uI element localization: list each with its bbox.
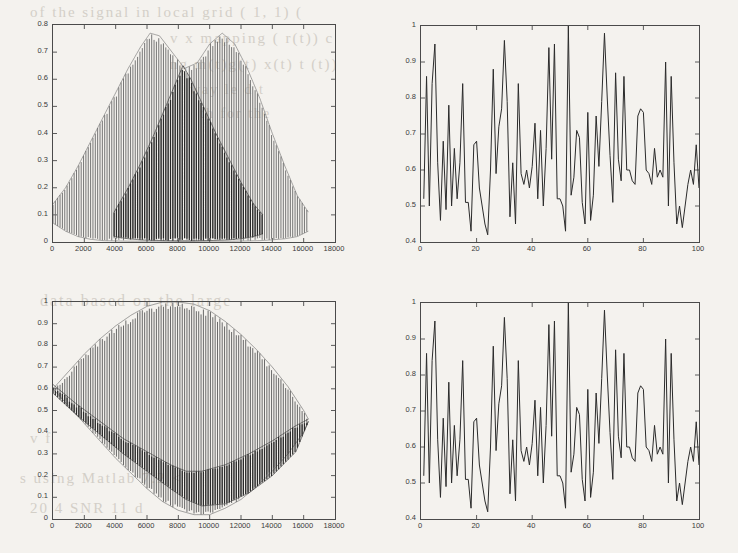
y-axis-tick-label: 0.7 bbox=[386, 406, 416, 414]
panel-bottom-left: 00.10.20.30.40.50.60.70.80.9102000400060… bbox=[0, 277, 369, 553]
y-axis-tick-label: 0.5 bbox=[18, 406, 48, 414]
x-axis-tick-label: 80 bbox=[622, 522, 662, 530]
y-axis-tick-label: 0.2 bbox=[18, 471, 48, 479]
tick-marks bbox=[421, 26, 699, 242]
x-axis-tick-label: 0 bbox=[400, 245, 440, 253]
y-axis-tick-label: 0.7 bbox=[386, 129, 416, 137]
y-axis-tick-label: 0.5 bbox=[386, 201, 416, 209]
x-axis-tick-label: 60 bbox=[567, 522, 607, 530]
y-axis-tick-label: 0.6 bbox=[18, 384, 48, 392]
signal-envelope-1 bbox=[53, 302, 308, 515]
signal-envelope-2 bbox=[53, 384, 308, 506]
y-axis-tick-label: 0.4 bbox=[18, 129, 48, 137]
tick-marks bbox=[421, 303, 699, 519]
plot-area-top-left bbox=[52, 24, 336, 243]
y-axis-tick-label: 0 bbox=[18, 514, 48, 522]
x-axis-tick-label: 20 bbox=[456, 522, 496, 530]
y-axis-tick-label: 0.6 bbox=[386, 442, 416, 450]
y-axis-tick-label: 0.1 bbox=[18, 492, 48, 500]
plot-canvas bbox=[421, 26, 699, 242]
y-axis-tick-label: 1 bbox=[386, 298, 416, 306]
x-axis-tick-label: 18000 bbox=[314, 245, 354, 253]
y-axis-tick-label: 1 bbox=[386, 21, 416, 29]
y-axis-tick-label: 0.5 bbox=[386, 478, 416, 486]
y-axis-tick-label: 0.8 bbox=[18, 20, 48, 28]
x-axis-tick-label: 100 bbox=[678, 522, 718, 530]
plot-area-bottom-right bbox=[420, 302, 700, 520]
y-axis-tick-label: 0.4 bbox=[18, 427, 48, 435]
y-axis-tick-label: 0.9 bbox=[386, 57, 416, 65]
x-axis-tick-label: 0 bbox=[400, 522, 440, 530]
signal-envelope-1 bbox=[53, 33, 308, 241]
y-axis-tick-label: 0.2 bbox=[18, 183, 48, 191]
y-axis-tick-label: 0.9 bbox=[18, 319, 48, 327]
x-axis-tick-label: 100 bbox=[678, 245, 718, 253]
y-axis-tick-label: 1 bbox=[18, 297, 48, 305]
plot-area-bottom-left bbox=[52, 301, 336, 520]
y-axis-tick-label: 0.6 bbox=[18, 74, 48, 82]
x-axis-tick-label: 60 bbox=[567, 245, 607, 253]
y-axis-tick-label: 0.3 bbox=[18, 449, 48, 457]
y-axis-tick-label: 0.8 bbox=[18, 340, 48, 348]
plot-canvas bbox=[53, 302, 335, 519]
panel-top-right: 0.40.50.60.70.80.91020406080100 bbox=[369, 0, 738, 277]
y-axis-tick-label: 0.8 bbox=[386, 93, 416, 101]
y-axis-tick-label: 0.6 bbox=[386, 165, 416, 173]
plot-canvas bbox=[53, 25, 335, 242]
series-line bbox=[424, 26, 699, 235]
x-axis-tick-label: 20 bbox=[456, 245, 496, 253]
x-axis-tick-label: 80 bbox=[622, 245, 662, 253]
y-axis-tick-label: 0.4 bbox=[386, 237, 416, 245]
y-axis-tick-label: 0.8 bbox=[386, 370, 416, 378]
x-axis-tick-label: 18000 bbox=[314, 522, 354, 530]
x-axis-tick-label: 40 bbox=[511, 522, 551, 530]
plot-canvas bbox=[421, 303, 699, 519]
y-axis-tick-label: 0.1 bbox=[18, 210, 48, 218]
y-axis-tick-label: 0 bbox=[18, 237, 48, 245]
y-axis-tick-label: 0.7 bbox=[18, 362, 48, 370]
series-line bbox=[424, 303, 699, 512]
y-axis-tick-label: 0.7 bbox=[18, 47, 48, 55]
y-axis-tick-label: 0.5 bbox=[18, 101, 48, 109]
x-axis-tick-label: 40 bbox=[511, 245, 551, 253]
panel-top-left: 00.10.20.30.40.50.60.70.8020004000600080… bbox=[0, 0, 369, 277]
y-axis-tick-label: 0.3 bbox=[18, 156, 48, 164]
plot-area-top-right bbox=[420, 25, 700, 243]
panel-bottom-right: 0.40.50.60.70.80.91020406080100 bbox=[369, 277, 738, 553]
y-axis-tick-label: 0.9 bbox=[386, 334, 416, 342]
y-axis-tick-label: 0.4 bbox=[386, 514, 416, 522]
